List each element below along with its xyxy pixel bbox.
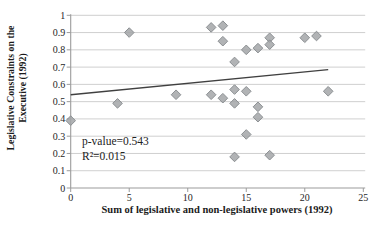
data-point-diamond (253, 112, 263, 122)
data-point-diamond (66, 116, 76, 126)
data-point-diamond (241, 45, 251, 55)
data-point-diamond (323, 86, 333, 96)
scatter-plot: 00.10.20.30.40.50.60.70.80.910510152025 (0, 0, 387, 236)
x-tick-label: 20 (300, 192, 310, 203)
stats-annotation: p-value=0.543 R²=0.015 (82, 134, 149, 163)
y-tick-label: 0.7 (53, 62, 66, 73)
y-axis-title-line2: Executive (1992) (17, 0, 29, 188)
data-point-diamond (230, 85, 240, 95)
data-point-diamond (218, 21, 228, 31)
y-axis-title: Legislative Constraints on the Executive… (5, 0, 29, 188)
y-tick-label: 0.3 (53, 131, 66, 142)
data-point-diamond (300, 33, 310, 43)
y-tick-label: 0.4 (53, 113, 66, 124)
p-value-label: p-value=0.543 (82, 134, 149, 149)
data-point-diamond (124, 28, 134, 38)
data-point-diamond (206, 23, 216, 33)
data-point-diamond (230, 57, 240, 67)
y-tick-label: 1 (60, 10, 65, 21)
y-tick-label: 0.2 (53, 148, 66, 159)
x-tick-label: 15 (241, 192, 251, 203)
data-point-diamond (241, 86, 251, 96)
data-point-diamond (253, 43, 263, 53)
data-point-diamond (218, 36, 228, 46)
trend-line (71, 70, 328, 95)
data-point-diamond (265, 40, 275, 50)
x-tick-label: 25 (358, 192, 368, 203)
x-tick-label: 10 (183, 192, 193, 203)
data-point-diamond (253, 102, 263, 112)
y-tick-label: 0.9 (53, 27, 66, 38)
y-tick-label: 0 (60, 183, 65, 194)
y-tick-label: 0.5 (53, 96, 66, 107)
data-point-diamond (230, 99, 240, 109)
y-tick-label: 0.8 (53, 44, 66, 55)
x-tick-label: 5 (127, 192, 132, 203)
y-axis-title-line1: Legislative Constraints on the (5, 0, 17, 188)
y-tick-label: 0.1 (53, 165, 66, 176)
chart-canvas: 00.10.20.30.40.50.60.70.80.910510152025 … (0, 0, 387, 236)
data-point-diamond (171, 90, 181, 100)
y-tick-label: 0.6 (53, 79, 66, 90)
x-axis-title: Sum of legislative and non-legislative p… (47, 204, 387, 215)
x-tick-label: 0 (68, 192, 73, 203)
data-point-diamond (241, 130, 251, 140)
data-point-diamond (265, 150, 275, 160)
r-squared-label: R²=0.015 (82, 149, 149, 164)
data-point-diamond (206, 90, 216, 100)
data-point-diamond (113, 99, 123, 109)
